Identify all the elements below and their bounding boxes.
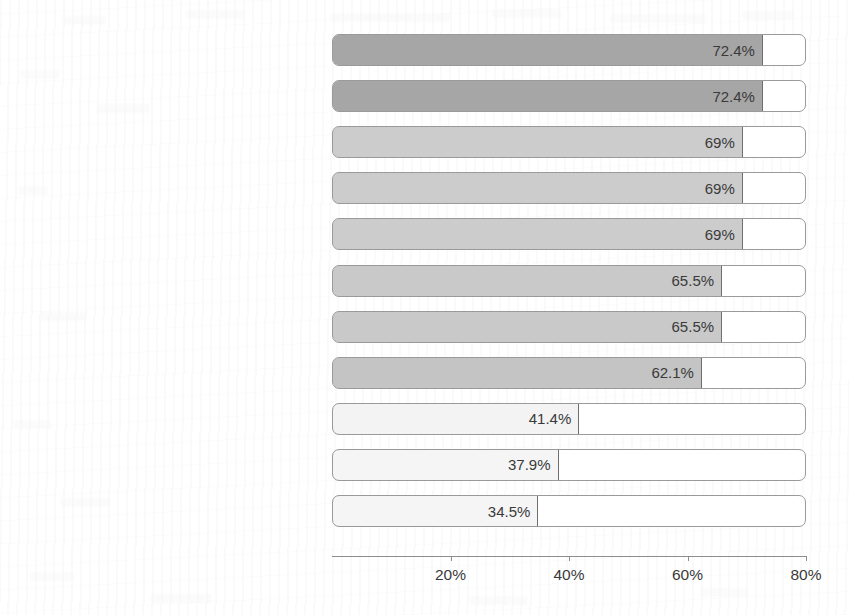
bar-row: Teamwork ability65.5% xyxy=(0,311,849,343)
bar-fill: 72.4% xyxy=(332,34,763,66)
horizontal-bar-chart: Exploratory ability72.4%Innovation abili… xyxy=(0,0,849,615)
bar-track: 69% xyxy=(332,218,806,250)
bar-track: 34.5% xyxy=(332,495,806,527)
bar-value-label: 72.4% xyxy=(712,43,762,58)
bar-value-label: 69% xyxy=(705,181,742,196)
bar-track: 37.9% xyxy=(332,449,806,481)
bar-track: 65.5% xyxy=(332,265,806,297)
bar-fill: 69% xyxy=(332,126,743,158)
bar-row: Self-confidence34.5% xyxy=(0,495,849,527)
bar-value-label: 72.4% xyxy=(712,89,762,104)
x-axis-tick xyxy=(451,556,452,561)
bar-track: 72.4% xyxy=(332,34,806,66)
bar-row: Communication and expression ability62.1… xyxy=(0,357,849,389)
bar-track: 41.4% xyxy=(332,403,806,435)
x-axis-tick-label: 80% xyxy=(790,566,821,584)
bar-row: Practical ability69% xyxy=(0,218,849,250)
x-axis-tick-label: 60% xyxy=(672,566,703,584)
bar-track: 69% xyxy=(332,172,806,204)
bar-row: Empathy65.5% xyxy=(0,265,849,297)
bar-value-label: 62.1% xyxy=(651,365,701,380)
x-axis-tick xyxy=(569,556,570,561)
bar-fill: 69% xyxy=(332,172,743,204)
bar-fill: 41.4% xyxy=(332,403,579,435)
bar-track: 62.1% xyxy=(332,357,806,389)
x-axis-tick xyxy=(688,556,689,561)
bar-row: Ability to ask questions69% xyxy=(0,172,849,204)
bar-fill: 69% xyxy=(332,218,743,250)
bar-row: Social participation literacy41.4% xyxy=(0,403,849,435)
bar-row: Observation ability69% xyxy=(0,126,849,158)
bar-value-label: 41.4% xyxy=(529,411,579,426)
bar-fill: 65.5% xyxy=(332,311,722,343)
bar-track: 69% xyxy=(332,126,806,158)
x-axis-tick-label: 20% xyxy=(435,566,466,584)
bar-row: Innovation ability72.4% xyxy=(0,80,849,112)
bar-fill: 34.5% xyxy=(332,495,538,527)
bar-fill: 62.1% xyxy=(332,357,702,389)
bar-value-label: 34.5% xyxy=(488,504,538,519)
bar-fill: 37.9% xyxy=(332,449,559,481)
bar-value-label: 37.9% xyxy=(508,457,558,472)
x-axis-tick xyxy=(806,556,807,561)
bar-track: 65.5% xyxy=(332,311,806,343)
bar-row: Exploratory ability72.4% xyxy=(0,34,849,66)
bar-value-label: 69% xyxy=(705,135,742,150)
bar-value-label: 69% xyxy=(705,227,742,242)
bar-fill: 65.5% xyxy=(332,265,722,297)
bar-fill: 72.4% xyxy=(332,80,763,112)
x-axis-tick-label: 40% xyxy=(553,566,584,584)
bar-track: 72.4% xyxy=(332,80,806,112)
bar-value-label: 65.5% xyxy=(672,319,722,334)
bar-value-label: 65.5% xyxy=(672,273,722,288)
bar-row: The ability to change the world37.9% xyxy=(0,449,849,481)
